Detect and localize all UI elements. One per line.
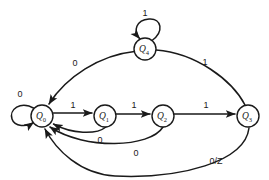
edge-path-q4-q0 [49, 52, 135, 105]
edge-label-q2-q0: 0 [133, 148, 138, 158]
node-q2-subscript: 2 [164, 116, 167, 123]
edge-label-q0-q1: 1 [70, 100, 75, 110]
edge-label-q4-self: 1 [142, 8, 147, 18]
node-q1-subscript: 1 [106, 116, 109, 123]
edge-q2-q0: 0 [50, 127, 163, 158]
edge-q2-q3: 1 [175, 100, 236, 114]
edge-q1-q2: 1 [117, 100, 151, 114]
edge-q4-q0: 0 [49, 52, 135, 105]
edge-label-q0-self: 0 [17, 89, 22, 99]
edge-q4-self: 1 [136, 8, 160, 41]
edge-q3-q0: 0/Z [45, 128, 249, 176]
node-q4[interactable]: Q4 [134, 38, 156, 60]
node-q2[interactable]: Q2 [152, 105, 174, 127]
edge-q1-q0: 0 [54, 124, 107, 145]
fsm-diagram: 0 1 1 1 1 1 0 [0, 0, 269, 180]
edge-label-q3-q0-text: 0/Z [209, 156, 223, 166]
edge-path-q3-q0 [45, 128, 249, 176]
node-q1[interactable]: Q1 [94, 105, 116, 127]
edge-label-q2-q3: 1 [203, 100, 208, 110]
edge-q3-q4: 1 [156, 50, 245, 105]
edge-q0-q1: 1 [54, 100, 93, 113]
edge-label-q1-q2: 1 [131, 100, 136, 110]
node-q3-subscript: 3 [249, 116, 252, 123]
edge-path-q3-q4 [156, 50, 245, 105]
edge-path-q4-self [136, 19, 160, 41]
node-q3[interactable]: Q3 [237, 105, 259, 127]
edge-label-q3-q4: 1 [202, 57, 207, 67]
edge-label-q4-q0: 0 [72, 58, 77, 68]
node-q0-subscript: 0 [43, 116, 46, 123]
edge-label-q3-q0: 0/Z [209, 156, 223, 166]
node-q0[interactable]: Q0 [31, 105, 53, 127]
state-diagram-canvas: 0 1 1 1 1 1 0 [0, 0, 269, 180]
